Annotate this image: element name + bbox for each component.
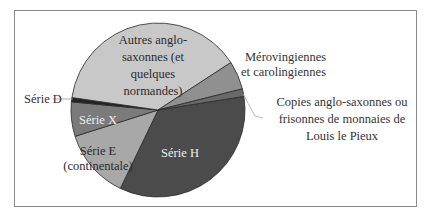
label-autres-line2: saxonnes (et xyxy=(122,50,185,64)
label-autres-line3: quelques xyxy=(131,67,176,81)
pie-chart: Autres anglo- saxonnes (et quelques norm… xyxy=(0,0,429,220)
label-copies-line1: Copies anglo-saxonnes ou xyxy=(276,95,408,109)
label-serie-x: Série X xyxy=(79,113,117,127)
label-serie-e-line2: (continentale) xyxy=(63,159,132,173)
label-autres-line1: Autres anglo- xyxy=(119,33,187,47)
label-serie-h: Série H xyxy=(161,146,199,160)
label-serie-e-line1: Série E xyxy=(80,144,117,158)
label-serie-d: Série D xyxy=(24,92,62,106)
label-autres-line4: normandes) xyxy=(123,84,182,98)
label-merovingiennes-line2: et carolingiennes xyxy=(241,65,326,79)
label-merovingiennes-line1: Mérovingiennes xyxy=(245,50,326,64)
label-copies-line2: frisonnes de monnaies de xyxy=(279,112,406,126)
leader-line-copies xyxy=(243,94,263,118)
label-copies-line3: Louis le Pieux xyxy=(306,129,379,143)
